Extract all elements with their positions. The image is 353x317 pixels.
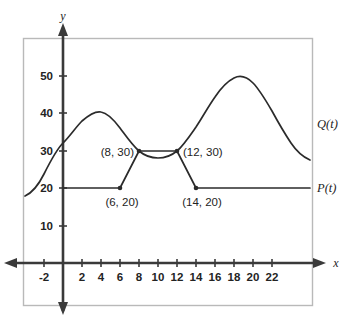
- x-tick-label-4: 4: [98, 271, 105, 283]
- x-tick-label-18: 18: [228, 271, 241, 283]
- x-tick-label-2: 2: [79, 271, 85, 283]
- curve-label-Q: Q(t): [317, 117, 338, 131]
- x-tick-label-10: 10: [152, 271, 165, 283]
- curve-Q: [25, 77, 310, 196]
- point-14-20-marker: [194, 186, 199, 191]
- x-tick-label-14: 14: [190, 271, 203, 283]
- point-12-30-marker: [175, 149, 180, 154]
- curve-label-P: P(t): [316, 181, 336, 195]
- point-6-20-marker: [118, 186, 123, 191]
- x-tick-label-20: 20: [247, 271, 260, 283]
- figure-border: [24, 39, 313, 306]
- x-tick-label-neg2: -2: [39, 271, 49, 283]
- x-axis: [4, 258, 326, 268]
- y-tick-label-40: 40: [40, 107, 53, 119]
- x-tick-label-16: 16: [209, 271, 222, 283]
- chart-figure: 50 40 30 20 10 -2 2 4 6 8 10 12 14 16 18…: [0, 0, 353, 317]
- x-tick-label-6: 6: [117, 271, 123, 283]
- annotation-6-20: (6, 20): [105, 196, 138, 208]
- y-axis: [58, 23, 68, 315]
- annotation-12-30: (12, 30): [183, 146, 223, 158]
- annotation-14-20: (14, 20): [182, 196, 222, 208]
- x-axis-arrow-right: [313, 258, 326, 268]
- annotation-8-30: (8, 30): [101, 146, 134, 158]
- y-axis-arrow-down: [58, 302, 68, 315]
- y-tick-label-50: 50: [40, 70, 53, 82]
- x-tick-label-22: 22: [266, 271, 279, 283]
- x-axis-label: x: [332, 256, 339, 270]
- x-tick-label-8: 8: [136, 271, 143, 283]
- x-tick-label-12: 12: [171, 271, 184, 283]
- chart-canvas: 50 40 30 20 10 -2 2 4 6 8 10 12 14 16 18…: [0, 0, 353, 317]
- y-axis-arrow-up: [58, 23, 68, 36]
- y-tick-label-30: 30: [40, 145, 53, 157]
- y-tick-label-20: 20: [40, 182, 53, 194]
- x-axis-arrow-left: [4, 258, 17, 268]
- point-8-30-marker: [137, 149, 142, 154]
- y-axis-label: y: [59, 9, 66, 23]
- y-tick-label-10: 10: [40, 220, 53, 232]
